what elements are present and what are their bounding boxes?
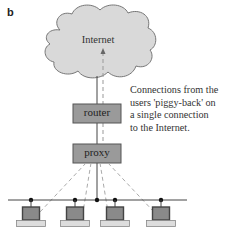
computer-3 bbox=[101, 198, 130, 227]
caption: Connections from the users 'piggy-back' … bbox=[130, 84, 230, 134]
caption-line-2: users 'piggy-back' on bbox=[130, 97, 230, 110]
computer-1 bbox=[17, 198, 46, 227]
computer-4 bbox=[147, 198, 176, 227]
internet-label: Internet bbox=[82, 34, 115, 45]
proxy-label: proxy bbox=[73, 146, 121, 158]
caption-line-1: Connections from the bbox=[130, 84, 230, 97]
caption-line-4: to the Internet. bbox=[130, 122, 230, 135]
router-label: router bbox=[73, 106, 121, 118]
computer-2 bbox=[61, 198, 90, 227]
bus-node-proxy bbox=[95, 198, 99, 202]
caption-line-3: a single connection bbox=[130, 109, 230, 122]
